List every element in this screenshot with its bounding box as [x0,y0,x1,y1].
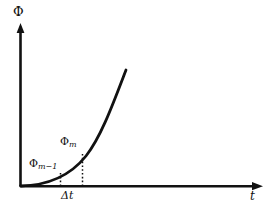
annotation-phi-m: Φm [60,136,77,149]
annotation-phi-m-minus-1-symbol: Φ [29,157,38,170]
y-axis [17,23,25,186]
y-axis-arrowhead-icon [17,23,25,33]
y-axis-label: Φ [13,5,24,18]
x-axis [21,182,264,190]
plot-area [0,0,276,211]
annotation-delta-t: Δt [61,190,73,201]
annotation-phi-m-symbol: Φ [60,135,69,148]
x-axis-label: t [250,190,255,202]
figure-container: Φ t Φm Φm−1 Δt [0,0,276,211]
annotation-phi-m-subscript: m [69,140,77,149]
annotation-phi-m-minus-1-subscript: m−1 [38,162,57,171]
annotation-phi-m-minus-1: Φm−1 [29,158,57,171]
